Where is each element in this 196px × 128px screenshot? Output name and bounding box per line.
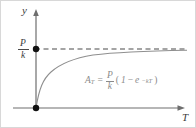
equation-one: 1 bbox=[121, 76, 126, 86]
equation-e-symbol: e bbox=[135, 76, 139, 86]
equation-lhs-subscript: T bbox=[91, 78, 95, 85]
equation-lhs: AT bbox=[85, 76, 94, 86]
equation-close-paren: ) bbox=[154, 76, 157, 86]
x-axis-label: T bbox=[182, 112, 188, 123]
equation-fraction-denominator: k bbox=[106, 82, 114, 91]
equation-open-paren: ( bbox=[116, 76, 119, 86]
x-axis-arrowhead bbox=[178, 105, 186, 110]
figure-container: y T P k AT = P k ( 1 − e−kT ) bbox=[0, 0, 196, 128]
asymptote-denominator: k bbox=[14, 50, 32, 60]
asymptote-value-label: P k bbox=[14, 38, 32, 60]
equation-minus: − bbox=[128, 76, 133, 86]
origin-dot bbox=[33, 105, 39, 111]
equation-fraction: P k bbox=[106, 71, 114, 91]
equation-fraction-numerator: P bbox=[106, 71, 114, 80]
asymptote-numerator: P bbox=[14, 38, 32, 48]
plot-canvas bbox=[1, 1, 196, 128]
y-axis-arrowhead bbox=[33, 9, 39, 16]
equation-equals-sign: = bbox=[96, 76, 103, 86]
y-axis-label: y bbox=[22, 5, 27, 16]
equation-exponent: −kT bbox=[141, 78, 152, 85]
asymptote-dot bbox=[33, 46, 39, 52]
equation-annotation: AT = P k ( 1 − e−kT ) bbox=[85, 71, 157, 91]
